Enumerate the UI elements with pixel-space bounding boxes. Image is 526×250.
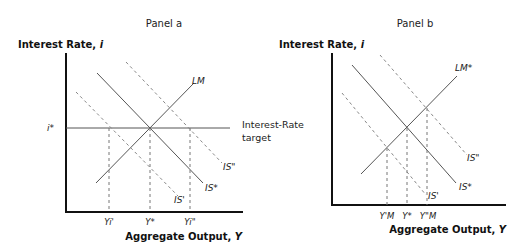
- panel-b-lm-star-curve: [361, 76, 457, 174]
- panel-a-is-prime-label: IS': [174, 195, 185, 205]
- panel-a-lm-curve: [96, 83, 194, 183]
- panel-b-y-axis-title: Interest Rate, i: [279, 39, 365, 50]
- panel-a: Panel a Interest Rate, i i* Interest-Rat…: [18, 18, 304, 242]
- panel-a-is-double-prime-curve: [126, 62, 222, 163]
- panel-a-is-star-label: IS*: [205, 183, 218, 193]
- panel-a-tick-yi-prime: Yi': [104, 217, 114, 227]
- panel-b-is-star-label: IS*: [459, 182, 472, 192]
- panel-b-title: Panel b: [397, 18, 434, 29]
- panel-a-tick-y-star: Y*: [145, 217, 154, 227]
- panel-b-x-axis-title: Aggregate Output, Y: [389, 224, 507, 235]
- panel-a-target-label-1: Interest-Rate: [242, 119, 304, 130]
- panel-a-i-star-label: i*: [47, 123, 55, 133]
- panel-a-is-double-prime-label: IS": [223, 162, 236, 172]
- panel-b-is-double-prime-curve: [380, 55, 467, 155]
- panel-a-x-axis-title: Aggregate Output, Y: [125, 231, 243, 242]
- panel-a-is-prime-curve: [76, 92, 178, 196]
- panel-b-tick-y-star: Y*: [402, 211, 411, 221]
- panel-a-lm-label: LM: [192, 76, 205, 86]
- panel-b-is-prime-curve: [342, 93, 426, 195]
- islm-diagram: Panel a Interest Rate, i i* Interest-Rat…: [0, 0, 526, 250]
- panel-a-y-axis-title: Interest Rate, i: [18, 39, 104, 50]
- panel-b-is-prime-label: IS': [428, 191, 439, 201]
- panel-b: Panel b Interest Rate, i LM* IS* IS' IS"…: [279, 18, 508, 235]
- panel-a-tick-yi-double-prime: Yi": [184, 217, 195, 227]
- panel-a-title: Panel a: [146, 18, 182, 29]
- panel-b-tick-y-double-prime-m: Y"M: [420, 211, 437, 221]
- panel-a-target-label-2: target: [242, 132, 271, 143]
- panel-b-is-double-prime-label: IS": [467, 153, 480, 163]
- panel-b-lm-star-label: LM*: [455, 63, 473, 73]
- panel-b-tick-y-prime-m: Y'M: [380, 211, 396, 221]
